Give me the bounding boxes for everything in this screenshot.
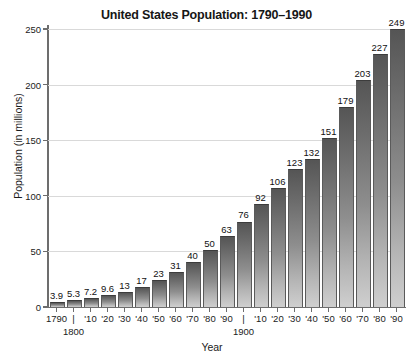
bar-value-label: 31 <box>170 260 181 271</box>
bar <box>356 80 371 307</box>
bar <box>390 29 405 307</box>
x-axis-title: Year <box>201 341 222 353</box>
bar <box>169 272 184 307</box>
x-tick-label: '10 <box>84 313 96 324</box>
x-tick-mark <box>260 307 261 312</box>
x-tick-label: '60 <box>169 313 181 324</box>
bar-value-label: 7.2 <box>84 286 97 297</box>
bar <box>254 204 269 307</box>
x-tick-mark <box>243 307 244 312</box>
x-tick-mark <box>277 307 278 312</box>
bar-value-label: 9.6 <box>101 283 114 294</box>
x-tick-label: '40 <box>135 313 147 324</box>
bar <box>50 302 65 307</box>
bar-value-label: 40 <box>187 250 198 261</box>
y-tick-label: 50 <box>1 246 41 257</box>
bar-value-label: 132 <box>304 147 320 158</box>
x-tick-mark <box>396 307 397 312</box>
x-tick-label: '50 <box>322 313 334 324</box>
bar-value-label: 23 <box>153 268 164 279</box>
x-tick-label: '80 <box>203 313 215 324</box>
bar <box>220 236 235 307</box>
x-tick-label: '80 <box>373 313 385 324</box>
x-tick-mark <box>107 307 108 312</box>
x-tick-mark <box>141 307 142 312</box>
x-tick-mark <box>73 307 74 312</box>
x-tick-mark <box>192 307 193 312</box>
gridline <box>48 85 405 86</box>
bar-value-label: 92 <box>255 192 266 203</box>
x-tick-mark <box>345 307 346 312</box>
population-bar-chart: United States Population: 1790–1990 Popu… <box>0 0 413 363</box>
bar <box>322 138 337 307</box>
bar-value-label: 50 <box>204 238 215 249</box>
x-tick-mark <box>379 307 380 312</box>
y-tick-label: 250 <box>1 24 41 35</box>
x-tick-mark <box>362 307 363 312</box>
x-tick-label: '20 <box>271 313 283 324</box>
bar <box>288 169 303 307</box>
bar <box>135 287 150 307</box>
x-tick-label: '50 <box>152 313 164 324</box>
x-tick-mark <box>124 307 125 312</box>
bar-value-label: 3.9 <box>50 290 63 301</box>
bar <box>84 298 99 307</box>
x-tick-label: 1790 <box>46 313 67 324</box>
bar <box>339 107 354 307</box>
bar-value-label: 227 <box>372 42 388 53</box>
x-tick-mark <box>209 307 210 312</box>
bar <box>271 188 286 307</box>
bar <box>373 54 388 307</box>
bar-value-label: 17 <box>136 275 147 286</box>
x-tick-label: | <box>242 313 244 324</box>
x-tick-mark <box>158 307 159 312</box>
x-tick-label: '20 <box>101 313 113 324</box>
x-tick-label: '40 <box>305 313 317 324</box>
x-tick-mark <box>294 307 295 312</box>
x-tick-mark <box>90 307 91 312</box>
bar-value-label: 151 <box>321 126 337 137</box>
plot-area <box>48 29 405 307</box>
x-tick-sublabel: 1900 <box>233 326 254 337</box>
bar <box>186 262 201 307</box>
bar-value-label: 63 <box>221 224 232 235</box>
x-tick-label: '90 <box>220 313 232 324</box>
gridline <box>48 29 405 30</box>
bar <box>237 222 252 308</box>
bar-value-label: 203 <box>355 68 371 79</box>
x-tick-label: '30 <box>288 313 300 324</box>
x-tick-label: '70 <box>186 313 198 324</box>
bar <box>118 292 133 307</box>
y-tick-label: 200 <box>1 79 41 90</box>
bar-value-label: 76 <box>238 209 249 220</box>
x-tick-label: '30 <box>118 313 130 324</box>
x-tick-mark <box>328 307 329 312</box>
x-tick-label: '10 <box>254 313 266 324</box>
bar <box>101 295 116 307</box>
bar-value-label: 179 <box>338 95 354 106</box>
bar <box>203 250 218 307</box>
bar <box>305 159 320 307</box>
bar-value-label: 249 <box>389 17 405 28</box>
bar <box>152 280 167 307</box>
bar-value-label: 5.3 <box>67 288 80 299</box>
x-tick-label: '90 <box>390 313 402 324</box>
x-tick-sublabel: 1800 <box>63 326 84 337</box>
x-tick-label: | <box>72 313 74 324</box>
bar-value-label: 123 <box>287 157 303 168</box>
y-tick-label: 0 <box>1 302 41 313</box>
bar-value-label: 106 <box>270 176 286 187</box>
chart-title: United States Population: 1790–1990 <box>0 8 413 22</box>
y-tick-label: 150 <box>1 135 41 146</box>
x-tick-mark <box>175 307 176 312</box>
y-tick-label: 100 <box>1 190 41 201</box>
x-tick-mark <box>56 307 57 312</box>
x-tick-label: '70 <box>356 313 368 324</box>
bar <box>67 300 82 307</box>
x-tick-label: '60 <box>339 313 351 324</box>
bar-value-label: 13 <box>119 280 130 291</box>
x-tick-mark <box>311 307 312 312</box>
x-tick-mark <box>226 307 227 312</box>
